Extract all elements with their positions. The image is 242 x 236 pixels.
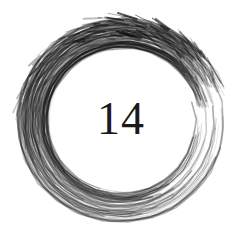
feather-barb bbox=[90, 27, 98, 28]
center-number: 14 bbox=[0, 96, 242, 142]
feather-barb bbox=[107, 39, 115, 40]
feather-barb bbox=[84, 18, 102, 19]
